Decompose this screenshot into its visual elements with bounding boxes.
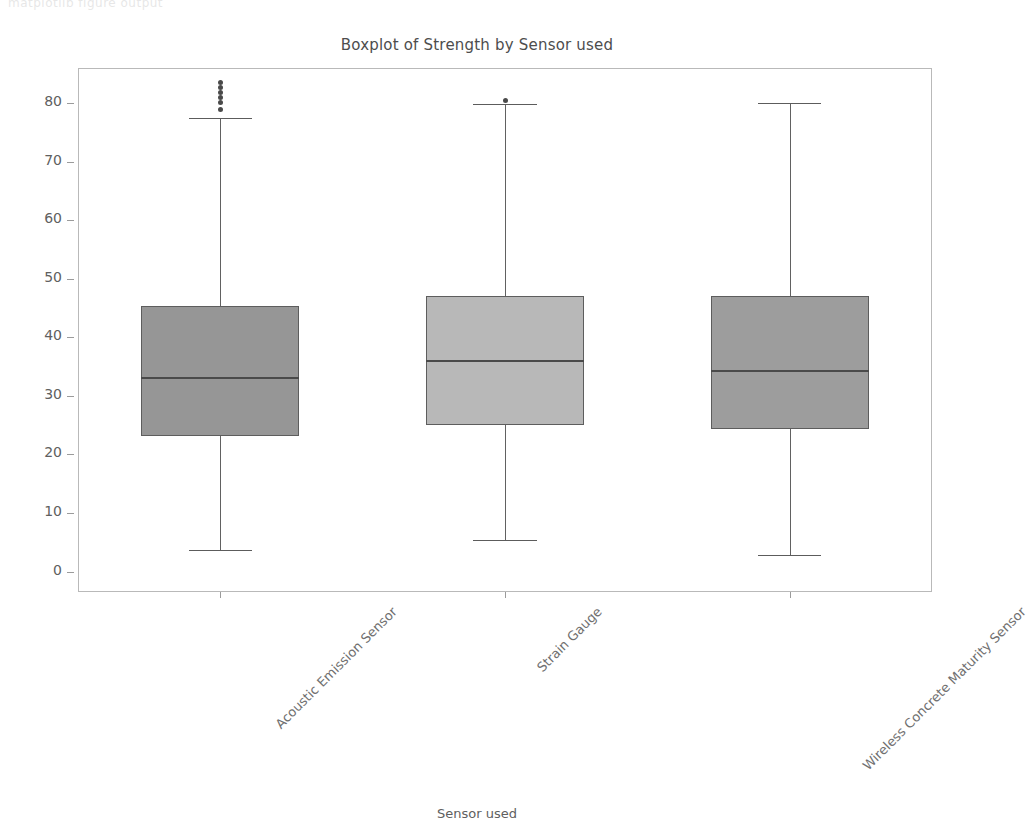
median-line: [141, 377, 299, 379]
whisker-upper: [505, 104, 506, 296]
median-line: [426, 360, 584, 362]
y-axis-tick-label: 30: [44, 386, 62, 402]
x-axis-tick-label: Strain Gauge: [534, 604, 605, 675]
y-axis-tick-mark: [67, 454, 74, 455]
y-axis-tick-label: 0: [53, 562, 62, 578]
outlier-point: [218, 107, 223, 112]
y-axis-tick-mark: [67, 337, 74, 338]
y-axis-tick-label: 50: [44, 269, 62, 285]
y-axis-tick-mark: [67, 103, 74, 104]
outlier-point: [218, 90, 223, 95]
x-axis-tick-label: Wireless Concrete Maturity Sensor: [859, 604, 1028, 773]
y-axis-tick-mark: [67, 220, 74, 221]
x-axis-tick-mark: [505, 592, 506, 598]
y-axis-tick-label: 10: [44, 503, 62, 519]
x-axis-tick-mark: [220, 592, 221, 598]
whisker-cap-upper: [758, 103, 821, 104]
y-axis-tick-label: 70: [44, 152, 62, 168]
whisker-cap-upper: [189, 118, 252, 119]
y-axis-tick-label: 80: [44, 93, 62, 109]
y-axis-tick-label: 60: [44, 210, 62, 226]
outlier-point: [218, 80, 223, 85]
ghost-text: matplotlib figure output: [8, 0, 163, 10]
y-axis-tick-mark: [67, 162, 74, 163]
outlier-point: [503, 98, 508, 103]
whisker-cap-upper: [473, 104, 536, 105]
outlier-point: [218, 95, 223, 100]
whisker-cap-lower: [189, 550, 252, 551]
box-iqr-rect: [141, 306, 299, 435]
whisker-cap-lower: [473, 540, 536, 541]
y-axis-tick-label: 20: [44, 444, 62, 460]
whisker-cap-lower: [758, 555, 821, 556]
y-axis-tick-mark: [67, 396, 74, 397]
y-axis-tick-mark: [67, 572, 74, 573]
whisker-lower: [790, 429, 791, 554]
box-iqr-rect: [711, 296, 869, 429]
y-axis-tick-label: 40: [44, 327, 62, 343]
whisker-upper: [220, 118, 221, 307]
x-axis-tick-mark: [790, 592, 791, 598]
whisker-lower: [505, 425, 506, 540]
whisker-upper: [790, 103, 791, 296]
whisker-lower: [220, 436, 221, 550]
x-axis-tick-label: Acoustic Emission Sensor: [273, 604, 401, 732]
x-axis-label: Sensor used: [0, 806, 954, 821]
y-axis-tick-mark: [67, 513, 74, 514]
figure-header-ghost-text: matplotlib figure output: [0, 0, 954, 14]
outlier-point: [218, 100, 223, 105]
y-axis-tick-mark: [67, 279, 74, 280]
chart-title: Boxplot of Strength by Sensor used: [0, 36, 954, 54]
median-line: [711, 370, 869, 372]
